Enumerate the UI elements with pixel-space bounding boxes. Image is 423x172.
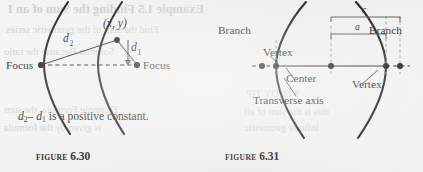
focus-left-dot	[38, 62, 44, 68]
figure-6-31-caption: FIGURE6.31	[225, 146, 279, 164]
svg-text:d: d	[63, 32, 69, 45]
focus-right-label: Focus	[143, 59, 171, 71]
focus-right-dot	[397, 63, 403, 69]
figure-6-31-diagram: c a Branch Branch Vertex Vertex Center T…	[212, 0, 423, 140]
desc-suffix: is a positive constant.	[46, 110, 149, 123]
bracket-c	[331, 17, 400, 22]
bracket-a-label: a	[355, 21, 360, 32]
vertex-right-label: Vertex	[352, 78, 382, 90]
segment-d2	[41, 40, 117, 65]
branch-right-label: Branch	[369, 24, 402, 36]
hyperbola-left-branch	[276, 2, 306, 138]
figure-number: 6.31	[259, 150, 279, 162]
distance-d1-label: d 1	[131, 41, 142, 57]
center-dot	[328, 63, 334, 69]
figure-6-30-caption: FIGURE6.30	[36, 146, 90, 164]
branch-left-label: Branch	[218, 24, 251, 36]
scanned-textbook-figure-page: Example 1.5 Finding the Sum of an I Find…	[0, 0, 423, 172]
bracket-c-label: c	[362, 4, 367, 15]
focus-left-dot	[259, 63, 265, 69]
focus-left-label: Focus	[6, 59, 34, 71]
hyperbola-right-branch	[356, 2, 386, 138]
distance-d2-label: d 2	[63, 32, 74, 48]
figure-wordmark: FIGURE	[36, 153, 68, 162]
point-xy-dot	[114, 37, 120, 43]
figure-number: 6.30	[70, 150, 90, 162]
transverse-axis-label: Transverse axis	[253, 94, 324, 106]
focus-right-dot	[134, 62, 140, 68]
svg-text:2: 2	[70, 39, 74, 48]
vertex-left-dot	[273, 63, 279, 69]
vertex-left-label: Vertex	[263, 46, 293, 58]
svg-text:1: 1	[138, 48, 142, 57]
vertex-right-dot	[383, 63, 389, 69]
svg-text:d: d	[131, 41, 137, 54]
desc-minus: –	[28, 110, 34, 123]
point-xy-label: (x, y)	[103, 17, 127, 30]
center-label: Center	[286, 72, 317, 84]
figure-wordmark: FIGURE	[225, 153, 257, 162]
figure-6-30-description: d2– d1 is a positive constant.	[18, 110, 149, 124]
